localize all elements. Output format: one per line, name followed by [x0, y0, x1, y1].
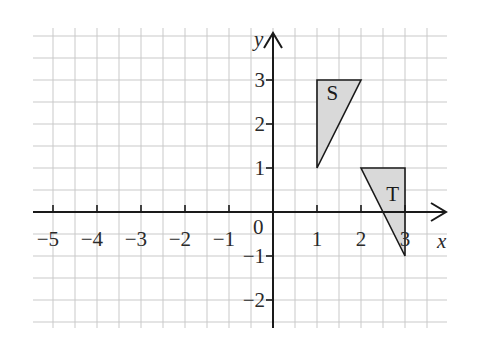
x-tick-label: 2 — [356, 227, 367, 251]
x-tick-label: 3 — [400, 227, 411, 251]
x-tick-label: −2 — [169, 227, 191, 251]
coordinate-grid-diagram: ST x y 0 −5−4−3−2−1123321−1−2 — [0, 0, 481, 346]
x-tick-label: −3 — [125, 227, 147, 251]
x-tick-label: −1 — [213, 227, 235, 251]
triangle-s-label: S — [327, 81, 339, 105]
x-tick-label: −5 — [37, 227, 59, 251]
origin-label: 0 — [253, 215, 264, 239]
x-axis-label: x — [436, 229, 447, 253]
y-tick-label: 1 — [255, 156, 266, 180]
y-tick-label: 3 — [255, 68, 266, 92]
y-tick-label: −2 — [243, 288, 265, 312]
y-tick-label: −1 — [243, 244, 265, 268]
triangle-t-label: T — [386, 182, 399, 206]
x-tick-label: 1 — [312, 227, 323, 251]
y-axis-label: y — [252, 27, 264, 51]
y-tick-label: 2 — [255, 112, 266, 136]
x-tick-label: −4 — [81, 227, 104, 251]
